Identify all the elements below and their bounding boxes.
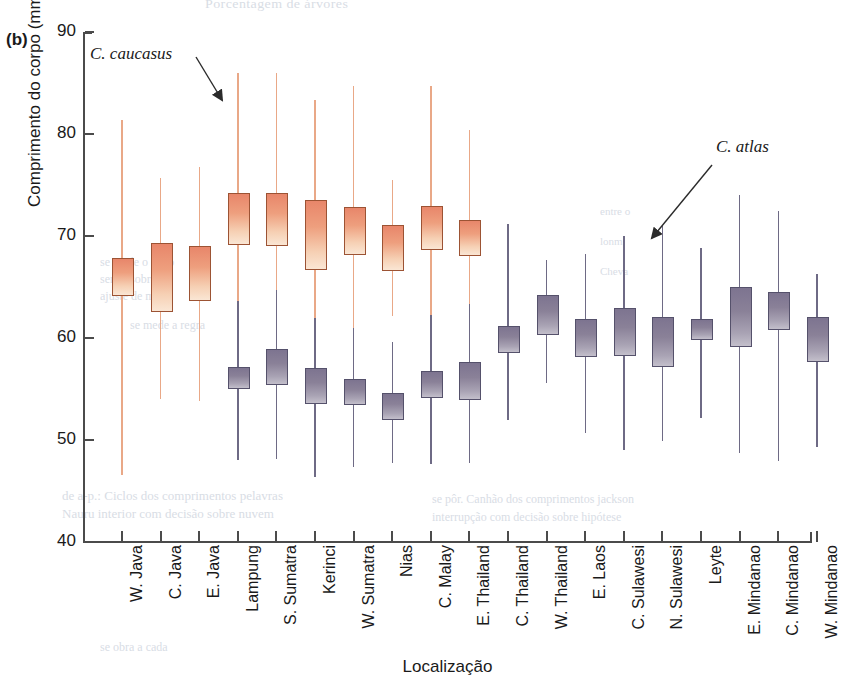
- box-rect: [421, 371, 443, 399]
- whisker-line: [778, 211, 779, 462]
- x-tick: [353, 531, 355, 542]
- chart-plot-area: 405060708090 W. JavaC. JavaE. JavaLampun…: [83, 32, 812, 542]
- x-tick-label: W. Thailand: [553, 545, 571, 629]
- x-tick-label: E. Thailand: [475, 545, 493, 626]
- bleed-text-caption: Porcentagem de árvores: [205, 0, 348, 11]
- x-axis-title: Localização: [83, 657, 812, 677]
- box-rect: [305, 368, 327, 405]
- x-tick-label: E. Mindanao: [746, 545, 764, 635]
- whisker-line: [121, 120, 122, 475]
- box-rect: [151, 243, 173, 312]
- box-rect: [575, 319, 597, 358]
- x-tick: [160, 531, 162, 542]
- x-tick: [739, 531, 741, 542]
- y-tick: [85, 439, 94, 441]
- x-tick: [121, 531, 123, 542]
- x-axis-right-cap: [810, 532, 812, 542]
- box-rect: [421, 206, 443, 250]
- box-rect: [266, 349, 288, 385]
- box-rect: [807, 317, 829, 363]
- y-tick: [85, 235, 94, 237]
- x-tick: [816, 531, 818, 542]
- x-tick-label: W. Java: [128, 545, 146, 602]
- box-rect: [498, 326, 520, 354]
- box-rect: [768, 292, 790, 330]
- box-rect: [537, 295, 559, 335]
- x-tick-label: Kerinci: [321, 545, 339, 594]
- x-tick-label: N. Sulawesi: [668, 545, 686, 629]
- x-tick-label: Nias: [398, 545, 416, 577]
- y-tick-label: 70: [36, 225, 76, 245]
- y-tick: [85, 133, 94, 135]
- x-tick-label: C. Thailand: [514, 545, 532, 627]
- x-tick: [314, 531, 316, 542]
- box-rect: [652, 317, 674, 367]
- y-tick-label: 60: [36, 327, 76, 347]
- x-tick-label: Leyte: [707, 545, 725, 584]
- box-rect: [344, 207, 366, 255]
- box-rect: [189, 246, 211, 301]
- x-tick-label: C. Sulawesi: [630, 545, 648, 629]
- x-tick: [700, 531, 702, 542]
- bleed-text-line: se obra a cada: [100, 640, 168, 655]
- box-rect: [112, 258, 134, 296]
- x-tick: [275, 531, 277, 542]
- x-tick-label: C. Mindanao: [784, 545, 802, 636]
- x-tick: [777, 531, 779, 542]
- x-tick: [391, 531, 393, 542]
- box-rect: [614, 308, 636, 356]
- x-tick-label: Lampung: [244, 545, 262, 612]
- box-rect: [344, 379, 366, 405]
- y-axis-title: Comprimento do corpo (mm): [25, 0, 45, 207]
- y-axis-line: [83, 32, 85, 542]
- box-rect: [382, 225, 404, 271]
- x-tick: [198, 531, 200, 542]
- x-tick: [546, 531, 548, 542]
- y-tick-label: 40: [36, 531, 76, 551]
- whisker-line: [507, 224, 508, 420]
- x-tick: [237, 531, 239, 542]
- box-rect: [459, 362, 481, 400]
- x-tick: [584, 531, 586, 542]
- y-tick: [85, 541, 94, 543]
- y-tick: [85, 31, 94, 33]
- x-tick: [507, 531, 509, 542]
- x-tick-label: C. Java: [167, 545, 185, 599]
- x-tick-label: W. Sumatra: [360, 545, 378, 629]
- box-rect: [305, 200, 327, 269]
- x-axis-line: [83, 541, 812, 543]
- annotation-c-caucasus: C. caucasus: [90, 44, 172, 64]
- x-tick-label: E. Laos: [591, 545, 609, 599]
- x-tick: [430, 531, 432, 542]
- x-tick-label: S. Sumatra: [282, 545, 300, 625]
- box-rect: [730, 287, 752, 347]
- x-tick-label: E. Java: [205, 545, 223, 598]
- y-tick: [85, 337, 94, 339]
- box-rect: [459, 220, 481, 257]
- annotation-c-atlas: C. atlas: [716, 137, 769, 157]
- box-rect: [266, 193, 288, 246]
- box-rect: [382, 393, 404, 419]
- y-tick-label: 50: [36, 429, 76, 449]
- box-rect: [228, 367, 250, 389]
- box-rect: [228, 193, 250, 245]
- x-tick: [468, 531, 470, 542]
- x-tick-label: W. Mindanao: [823, 545, 841, 638]
- box-rect: [691, 319, 713, 340]
- x-tick: [623, 531, 625, 542]
- x-tick-label: C. Malay: [437, 545, 455, 608]
- x-tick: [661, 531, 663, 542]
